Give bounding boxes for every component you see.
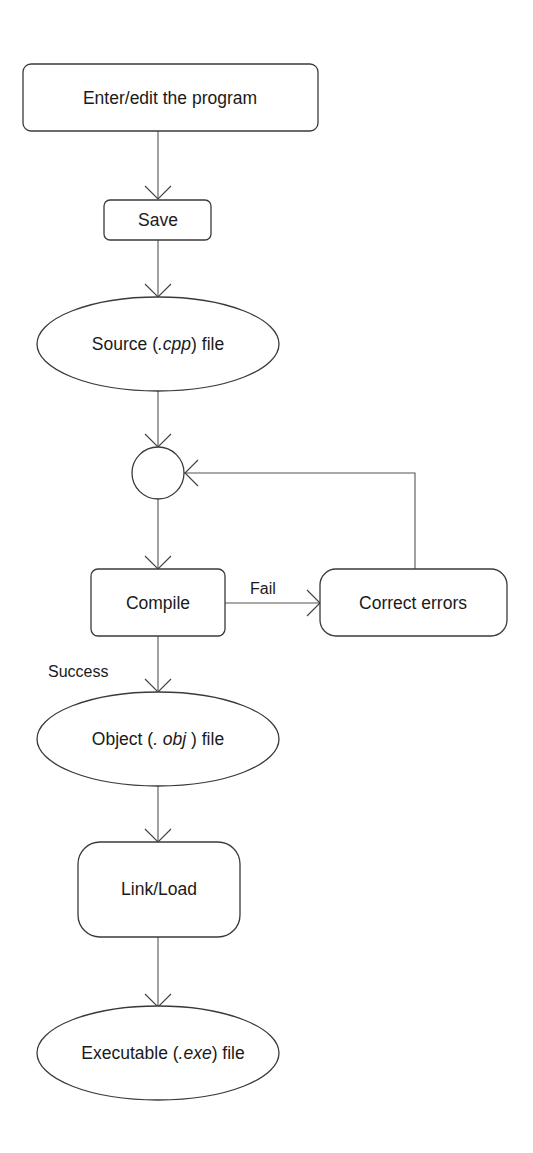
node-enter-edit-program: Enter/edit the program xyxy=(23,64,318,131)
node-label: Correct errors xyxy=(359,593,467,613)
node-label: Compile xyxy=(126,593,190,613)
node-compile: Compile xyxy=(91,569,225,636)
edge-junction-to-compile xyxy=(145,499,171,569)
edge-compile-to-correct-errors: Fail xyxy=(225,580,320,616)
edge-compile-to-object: Success xyxy=(48,636,171,692)
node-link-load: Link/Load xyxy=(78,842,240,937)
node-save: Save xyxy=(104,200,211,240)
node-label: Object (. obj ) file xyxy=(92,729,224,749)
node-label: Link/Load xyxy=(121,879,197,899)
node-label: Save xyxy=(138,210,178,230)
node-label: Source (.cpp) file xyxy=(92,334,224,354)
edge-link-to-executable xyxy=(145,937,171,1007)
edge-save-to-source xyxy=(145,240,171,297)
node-source-file: Source (.cpp) file xyxy=(37,297,279,391)
node-junction xyxy=(132,447,184,499)
compile-process-flowchart: Fail Success Enter/edit the program Save… xyxy=(0,0,533,1153)
node-executable-file: Executable (.exe) file xyxy=(37,1006,279,1100)
edge-source-to-junction xyxy=(145,391,171,447)
edge-correct-errors-to-junction xyxy=(184,460,415,569)
node-correct-errors: Correct errors xyxy=(320,569,507,636)
edge-label-fail: Fail xyxy=(250,580,276,597)
node-label: Executable (.exe) file xyxy=(81,1043,244,1063)
edge-enter-to-save xyxy=(145,131,171,199)
edge-label-success: Success xyxy=(48,663,108,680)
node-label: Enter/edit the program xyxy=(83,88,257,108)
junction-circle xyxy=(132,447,184,499)
edge-object-to-link xyxy=(145,786,171,842)
node-object-file: Object (. obj ) file xyxy=(37,692,279,786)
